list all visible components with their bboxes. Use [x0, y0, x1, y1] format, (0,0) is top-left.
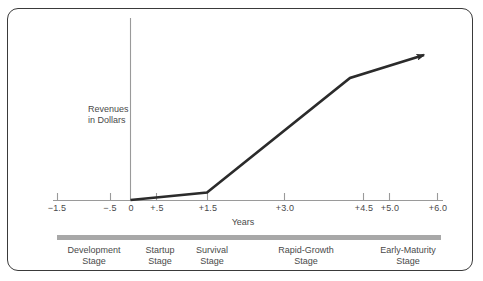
stage-label-survival: Survival Stage: [196, 245, 228, 267]
x-tick-label: +4.5: [355, 203, 374, 213]
stage-label-startup: Startup Stage: [145, 245, 174, 267]
y-axis-title: Revenues in Dollars: [88, 104, 125, 126]
x-tick-label: 0: [128, 203, 133, 213]
stage-label-line1: Development: [67, 245, 120, 256]
stage-label-line2: Stage: [278, 256, 334, 267]
stage-label-line1: Survival: [196, 245, 228, 256]
stage-label-line1: Rapid-Growth: [278, 245, 334, 256]
stage-label-line1: Startup: [145, 245, 174, 256]
x-tick-label: +.5: [150, 203, 163, 213]
stage-label-development: Development Stage: [67, 245, 120, 267]
stage-label-line2: Stage: [67, 256, 120, 267]
stage-timeline-bar: [57, 235, 441, 240]
revenue-curve: [131, 55, 425, 200]
stage-label-line2: Stage: [196, 256, 228, 267]
y-axis-title-line1: Revenues: [88, 104, 125, 115]
stage-label-early-maturity: Early-Maturity Stage: [380, 245, 436, 267]
stage-label-line2: Stage: [145, 256, 174, 267]
x-tick-label: +3.0: [276, 203, 295, 213]
x-tick-label: +6.0: [429, 203, 448, 213]
x-tick-label: +5.0: [381, 203, 400, 213]
y-axis-title-line2: in Dollars: [88, 115, 125, 126]
stage-label-line2: Stage: [380, 256, 436, 267]
x-tick-label: −.5: [103, 203, 116, 213]
x-axis-title: Years: [232, 217, 255, 227]
x-tick-label: −1.5: [48, 203, 67, 213]
stage-label-rapid-growth: Rapid-Growth Stage: [278, 245, 334, 267]
x-tick-label: +1.5: [199, 203, 218, 213]
figure-container: Revenues in Dollars −1.5 −.5 0 +.5 +1.5 …: [0, 0, 483, 281]
stage-label-line1: Early-Maturity: [380, 245, 436, 256]
x-axis-ticks: [58, 193, 438, 201]
